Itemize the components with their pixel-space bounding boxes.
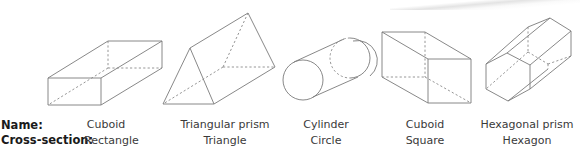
- cuboid-rectangle-shape: [48, 41, 162, 105]
- cross-section-row-label: Cross-section:: [1, 134, 93, 147]
- shape-name: Cuboid: [406, 118, 444, 131]
- shape-cross-section: Triangle: [203, 134, 246, 147]
- shape-cross-section: Circle: [311, 134, 342, 147]
- shape-name: Hexagonal prism: [480, 118, 573, 131]
- shape-name: Cuboid: [87, 118, 125, 131]
- shapes-drawing: [0, 0, 577, 112]
- shape-name: Triangular prism: [180, 118, 269, 131]
- shape-cross-section: Hexagon: [503, 134, 552, 147]
- name-row-label: Name:: [1, 119, 43, 132]
- triangular-prism-shape: [163, 13, 275, 104]
- shape-name: Cylinder: [303, 118, 349, 131]
- shape-cross-section: Rectangle: [84, 134, 139, 147]
- shape-cross-section: Square: [406, 134, 445, 147]
- hexagonal-prism-shape: [486, 18, 571, 101]
- cylinder-shape: [283, 38, 377, 100]
- cuboid-square-shape: [382, 32, 471, 103]
